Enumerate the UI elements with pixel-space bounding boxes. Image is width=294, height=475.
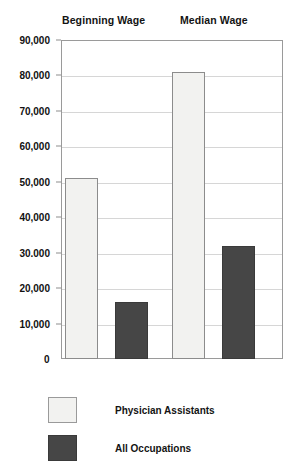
legend-item-all-occupations: All Occupations (48, 433, 278, 463)
legend-dark-swatch-icon (48, 435, 77, 461)
y-axis-labels: 10,00020,00030.00040,00050,00060,00070,0… (0, 40, 56, 359)
bar-group (61, 40, 283, 359)
y-axis-tick-label: 50,000 (19, 176, 50, 187)
y-axis-tick-label: 20,000 (19, 283, 50, 294)
bar (65, 178, 98, 359)
legend-label-all-occupations: All Occupations (115, 443, 191, 454)
y-axis-tick-label: 70,000 (19, 105, 50, 116)
chart-legend: Physician Assistants All Occupations (48, 395, 278, 471)
bar (222, 246, 255, 359)
category-header-beginning-wage: Beginning Wage (62, 14, 145, 26)
bar-chart-figure: Beginning Wage Median Wage 10,00020,0003… (0, 0, 294, 475)
bar (172, 72, 205, 359)
y-axis-tick-label: 10,000 (19, 318, 50, 329)
y-axis-tick-label: 40,000 (19, 212, 50, 223)
y-axis-tick-label: 60,000 (19, 141, 50, 152)
legend-label-physician-assistants: Physician Assistants (115, 405, 215, 416)
legend-light-swatch-icon (48, 397, 77, 423)
y-axis-zero-label: 0 (44, 354, 50, 365)
y-axis-tick-label: 30.000 (19, 247, 50, 258)
y-axis-tick-label: 80,000 (19, 70, 50, 81)
category-header-median-wage: Median Wage (180, 14, 248, 26)
category-header-row: Beginning Wage Median Wage (60, 14, 288, 34)
legend-item-physician-assistants: Physician Assistants (48, 395, 278, 425)
bar (115, 302, 148, 359)
y-axis-tick-label: 90,000 (19, 35, 50, 46)
